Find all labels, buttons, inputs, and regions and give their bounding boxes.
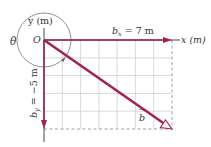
vector-bx bbox=[44, 37, 172, 43]
y-axis-label-text: y (m) bbox=[28, 15, 53, 26]
bx-arrowhead-icon bbox=[163, 37, 172, 43]
y-axis-label: y (m) bbox=[28, 16, 53, 26]
bx-value: = 7 m bbox=[125, 25, 154, 36]
origin-label: O bbox=[33, 35, 41, 45]
bx-label: bx = 7 m bbox=[112, 26, 154, 38]
by-value: = −5 m bbox=[28, 68, 39, 105]
theta-label: θ bbox=[10, 36, 16, 47]
vector-by bbox=[41, 40, 47, 129]
b-label: → b bbox=[139, 113, 145, 123]
by-label: by = −5 m bbox=[29, 68, 41, 118]
bx-subscript: x bbox=[118, 30, 122, 38]
axes bbox=[44, 28, 180, 142]
b-vector-arrow-icon: → bbox=[139, 107, 145, 114]
theta-symbol: θ bbox=[10, 35, 16, 47]
vector-b bbox=[44, 40, 172, 129]
x-axis-label-text: x (m) bbox=[181, 34, 206, 45]
origin-label-text: O bbox=[33, 34, 41, 45]
by-subscript: y bbox=[33, 108, 41, 112]
by-arrowhead-icon bbox=[41, 120, 47, 129]
x-axis-label: x (m) bbox=[181, 35, 206, 45]
by-symbol: b bbox=[28, 112, 39, 118]
